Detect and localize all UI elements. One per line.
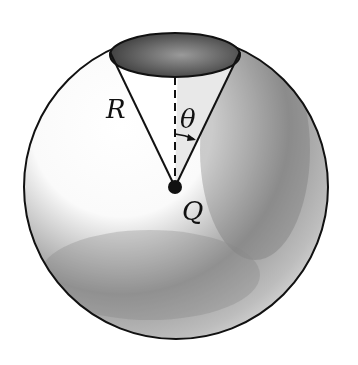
label-charge: Q [182, 196, 203, 226]
spherical-cap [110, 33, 240, 77]
label-radius: R [105, 94, 126, 124]
charge-point [168, 180, 182, 194]
sphere-diagram: R θ Q [0, 0, 358, 365]
label-angle: θ [180, 104, 196, 134]
